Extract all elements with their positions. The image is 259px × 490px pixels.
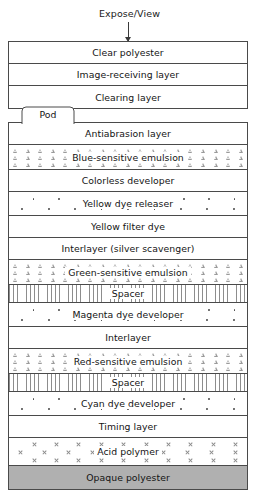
pod-tab: Pod [20,106,76,124]
layer-label-text: Interlayer [102,332,154,343]
layer-label: Spacer [109,377,147,388]
layer-label-text: Clear polyester [89,47,166,58]
pod-label: Pod [20,109,76,120]
layer-label-text: Green-sensitive emulsion [65,267,190,278]
film-layer: Magenta dye developer [9,303,247,327]
layer-label-text: Yellow filter dye [88,221,168,232]
film-layer: Cyan dye developer [9,392,247,416]
layer-label: Blue-sensitive emulsion [69,152,187,163]
layer-label: Colorless developer [79,175,178,186]
top-layer-stack: Clear polyesterImage-receiving layerClea… [8,41,248,109]
film-layer: Acid polymer [9,438,247,466]
layer-label: Green-sensitive emulsion [65,267,190,278]
layer-label: Interlayer [102,332,154,343]
layer-label: Red-sensitive emulsion [71,356,186,367]
layer-label-text: Opaque polyester [83,472,173,483]
layer-label-text: Image-receiving layer [74,69,182,80]
layer-label-text: Colorless developer [79,175,178,186]
layer-label: Acid polymer [94,446,162,457]
film-layer: Timing layer [9,416,247,438]
film-layer: Interlayer [9,327,247,349]
layer-label-text: Acid polymer [94,446,162,457]
film-layer: Clear polyester [9,42,247,64]
film-layer: Antiabrasion layer [9,123,247,145]
layer-label: Timing layer [96,421,160,432]
layer-label-text: Spacer [109,288,147,299]
film-layer: Colorless developer [9,170,247,192]
layer-label: Cyan dye developer [78,398,178,409]
layer-label-text: Magenta dye developer [69,309,186,320]
layer-label-text: Timing layer [96,421,160,432]
layer-label-text: Red-sensitive emulsion [71,356,186,367]
down-arrow-icon [128,22,129,41]
film-layer: Spacer [9,285,247,303]
layer-label-text: Clearing layer [92,92,164,103]
layer-label: Image-receiving layer [74,69,182,80]
film-layer: Yellow filter dye [9,216,247,238]
layer-label: Interlayer (silver scavenger) [58,243,197,254]
layer-label-text: Blue-sensitive emulsion [69,152,187,163]
film-layer: Red-sensitive emulsion [9,349,247,374]
layer-label: Yellow filter dye [88,221,168,232]
layer-label: Opaque polyester [83,472,173,483]
layer-label-text: Yellow dye releaser [80,198,176,209]
layer-label: Spacer [109,288,147,299]
film-layer: Blue-sensitive emulsion [9,145,247,170]
layer-label: Clear polyester [89,47,166,58]
film-layer: Image-receiving layer [9,64,247,86]
layer-label: Antiabrasion layer [82,128,174,139]
expose-view-label: Expose/View [0,8,259,19]
layer-label: Magenta dye developer [69,309,186,320]
film-layer: Spacer [9,374,247,392]
layer-label-text: Spacer [109,377,147,388]
film-layer: Green-sensitive emulsion [9,260,247,285]
film-layer: Clearing layer [9,86,247,108]
film-layer: Opaque polyester [9,466,247,489]
layer-label: Clearing layer [92,92,164,103]
layer-label-text: Interlayer (silver scavenger) [58,243,197,254]
film-layer: Yellow dye releaser [9,192,247,216]
film-layer: Interlayer (silver scavenger) [9,238,247,260]
layer-label: Yellow dye releaser [80,198,176,209]
layer-label-text: Antiabrasion layer [82,128,174,139]
main-layer-stack: Antiabrasion layerBlue-sensitive emulsio… [8,122,248,490]
layer-label-text: Cyan dye developer [78,398,178,409]
